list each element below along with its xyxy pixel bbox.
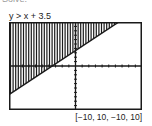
inequality-title: y > x + 3.5 — [9, 11, 51, 21]
graph-plot — [9, 22, 142, 110]
cut-off-text: Solve. — [2, 0, 27, 4]
window-settings-label: [−10, 10, −10, 10] — [75, 112, 142, 122]
calculator-graph-screen — [9, 22, 142, 110]
